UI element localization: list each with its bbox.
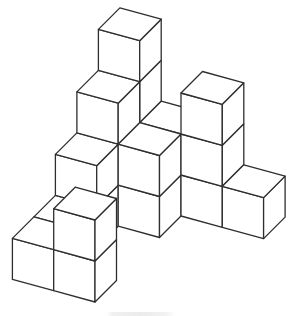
- cube-faces-group: [12, 8, 285, 302]
- faint-caption: [106, 312, 176, 316]
- cube-stack-figure: [0, 0, 294, 316]
